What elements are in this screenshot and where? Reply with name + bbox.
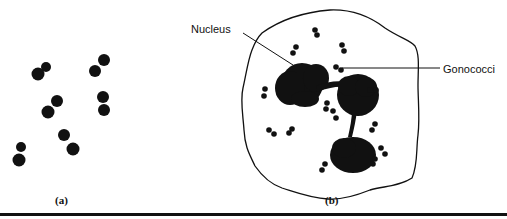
diplococcus (58, 129, 80, 156)
coccus (271, 131, 277, 137)
coccus (372, 121, 378, 127)
gonococci-label: Gonococci (443, 63, 495, 75)
coccus (322, 161, 328, 167)
nucleus-label: Nucleus (191, 23, 231, 35)
coccus (261, 93, 267, 99)
intracellular-diplococcus (323, 100, 330, 112)
coccus (314, 32, 320, 38)
coccus (319, 167, 325, 173)
coccus (369, 127, 375, 133)
coccus (41, 62, 51, 72)
intracellular-diplococcus (266, 127, 277, 137)
intracellular-diplococcus (319, 161, 328, 173)
multilobed-nucleus (275, 63, 379, 173)
coccus (286, 130, 292, 136)
coccus (42, 106, 55, 119)
diplococcus (32, 62, 52, 81)
diplococcus (42, 95, 64, 119)
coccus (89, 65, 101, 77)
panel-a-caption: (a) (55, 194, 68, 207)
coccus (382, 151, 388, 157)
coccus (312, 27, 318, 33)
panel-b-neutrophil: Nucleus Gonococci (191, 10, 495, 199)
coccus (290, 50, 296, 56)
coccus (16, 142, 26, 152)
intracellular-diplococcus (369, 121, 378, 133)
diplococcus (97, 91, 110, 116)
coccus (367, 87, 373, 93)
coccus (372, 156, 378, 162)
panel-a-free-diplococci (13, 54, 111, 167)
coccus (97, 91, 109, 103)
coccus (373, 87, 379, 93)
coccus (13, 154, 26, 167)
coccus (324, 100, 330, 106)
coccus (370, 161, 376, 167)
nucleus-leader-line (243, 33, 293, 65)
coccus (339, 42, 345, 48)
coccus (266, 127, 272, 133)
coccus (330, 108, 336, 114)
coccus (333, 115, 339, 121)
coccus (293, 44, 299, 50)
diplococcus (13, 142, 27, 167)
coccus (67, 143, 80, 156)
diplococcus (89, 54, 110, 77)
coccus (333, 64, 339, 70)
gonococci-diagram: (a) Nucleus Gonococci (b) (0, 0, 507, 219)
cell-membrane-outline (242, 10, 419, 199)
intracellular-diplococcus (339, 42, 347, 54)
panel-b-caption: (b) (325, 194, 339, 207)
coccus (378, 145, 384, 151)
intracellular-diplococcus (286, 126, 295, 136)
coccus (262, 86, 268, 92)
coccus (98, 104, 110, 116)
coccus (58, 129, 70, 141)
coccus (341, 48, 347, 54)
coccus (51, 95, 63, 107)
intracellular-diplococcus (378, 145, 388, 157)
bottom-rule (0, 213, 507, 216)
intracellular-diplococcus (290, 44, 299, 56)
coccus (98, 54, 110, 66)
intracellular-diplococcus (312, 27, 320, 38)
coccus (323, 106, 329, 112)
intracellular-diplococcus (261, 86, 268, 99)
intracellular-diplococcus (330, 108, 339, 121)
